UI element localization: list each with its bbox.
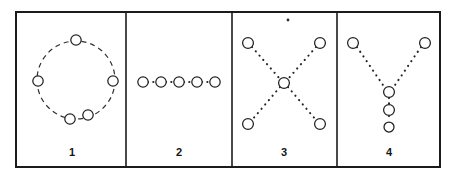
- four-panel-topology-diagram: 1 2 3: [0, 0, 457, 180]
- panel4-node-branch-right: [420, 38, 431, 49]
- panel2-node-2: [156, 77, 166, 87]
- panel-1-label: 1: [69, 146, 75, 158]
- panel2-node-3: [174, 77, 184, 87]
- panel3-node-center: [279, 78, 290, 89]
- panel3-speck-artifact: [287, 19, 290, 22]
- panel2-node-4: [192, 77, 202, 87]
- panel3-node-top-right: [315, 38, 326, 49]
- panel4-node-junction: [384, 87, 395, 98]
- panel-2-label: 2: [176, 146, 182, 158]
- panel3-node-top-left: [243, 38, 254, 49]
- panel2-node-1: [138, 77, 148, 87]
- panel4-node-branch-left: [348, 38, 359, 49]
- panel1-node-right: [108, 76, 118, 86]
- panel-4-label: 4: [386, 146, 393, 158]
- panel1-node-bottom-right: [83, 110, 93, 120]
- panel1-node-top: [71, 35, 81, 45]
- figure-container: 1 2 3: [0, 0, 457, 180]
- panel3-node-bottom-left: [243, 119, 254, 130]
- panel4-node-stem-middle: [384, 105, 395, 116]
- panel1-node-left: [33, 76, 43, 86]
- panel2-node-5: [210, 77, 220, 87]
- panel3-node-bottom-right: [315, 119, 326, 130]
- panel4-node-stem-bottom: [384, 122, 394, 132]
- panel-3-label: 3: [281, 146, 287, 158]
- panel1-node-bottom-left: [65, 114, 75, 124]
